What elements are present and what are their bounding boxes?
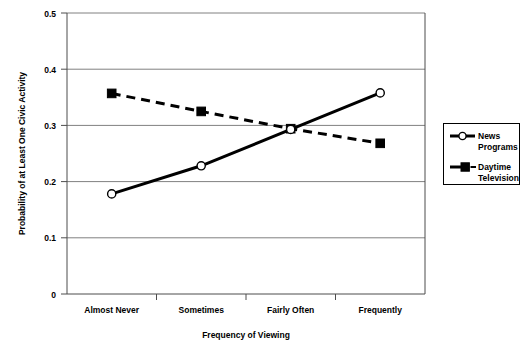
y-tick-label-0.3: 0.3 (44, 121, 56, 131)
x-tick-label-fairly-often: Fairly Often (267, 305, 314, 315)
x-tick-label-frequently: Frequently (358, 305, 402, 315)
y-tick-label-0.2: 0.2 (44, 177, 56, 187)
y-tick-labels: 0.5 0.4 0.3 0.2 0.1 0 (44, 9, 56, 300)
data-point-news-0 (108, 190, 116, 198)
gridlines (67, 13, 425, 238)
legend-label-daytime-line2: Television (478, 173, 519, 183)
x-tickmarks (157, 294, 336, 300)
data-point-daytime-3 (376, 139, 385, 148)
legend-marker-open-circle (459, 132, 466, 139)
data-point-news-1 (197, 162, 205, 170)
y-axis-title: Probability of at Least One Civic Activi… (17, 72, 27, 235)
legend-label-daytime-line1: Daytime (478, 162, 511, 172)
y-tick-label-0.4: 0.4 (44, 65, 56, 75)
series-daytime-television-line (112, 93, 381, 143)
x-tick-label-sometimes: Sometimes (179, 305, 225, 315)
series-daytime-television (107, 89, 384, 148)
y-tick-label-0.1: 0.1 (44, 233, 56, 243)
series-news-programs-line (112, 93, 381, 194)
data-point-daytime-0 (107, 89, 116, 98)
chart-legend: News Programs Daytime Television (444, 124, 520, 185)
data-point-daytime-1 (197, 107, 206, 116)
x-tick-label-almost-never: Almost Never (84, 305, 139, 315)
y-tick-label-0.5: 0.5 (44, 9, 56, 19)
axes (67, 13, 425, 294)
y-tickmarks (61, 13, 67, 294)
x-tick-labels: Almost Never Sometimes Fairly Often Freq… (84, 305, 402, 315)
chart-figure: 0.5 0.4 0.3 0.2 0.1 0 Almost Never Somet… (0, 0, 524, 348)
chart-svg: 0.5 0.4 0.3 0.2 0.1 0 Almost Never Somet… (0, 0, 524, 348)
x-axis-title: Frequency of Viewing (202, 330, 290, 340)
data-point-news-2 (287, 125, 295, 133)
legend-marker-filled-square (461, 163, 469, 171)
legend-label-news-line1: News (478, 131, 500, 141)
legend-label-news-line2: Programs (478, 142, 518, 152)
y-tick-label-0: 0 (51, 290, 56, 300)
data-point-news-3 (376, 89, 384, 97)
